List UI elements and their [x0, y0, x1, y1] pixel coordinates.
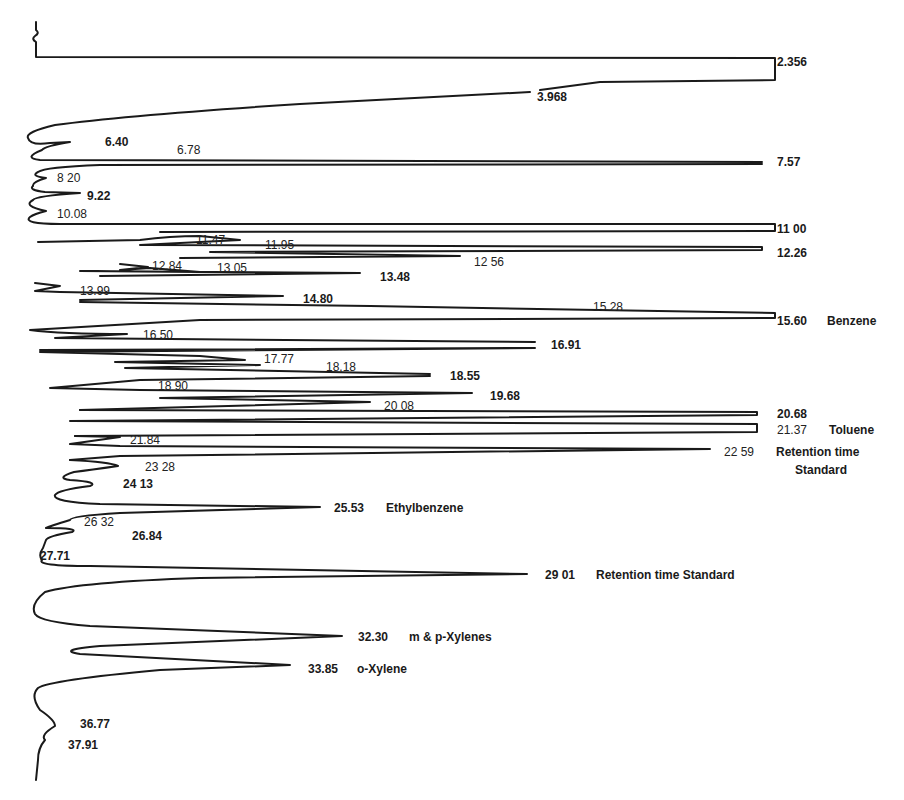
peak-label: 6.40	[105, 135, 129, 149]
peak-label: 8 20	[57, 171, 81, 185]
peak-label: 20.68	[777, 407, 807, 421]
peak-label: 17.77	[264, 352, 294, 366]
peak-label: 18,18	[326, 360, 356, 374]
peak-label: 12.26	[777, 246, 807, 260]
peak-label: 29 01	[545, 568, 575, 582]
peak-label: 14.80	[303, 292, 333, 306]
peak-label: 25.53	[334, 501, 364, 515]
peak-label: 16.91	[551, 338, 581, 352]
peak-label: 21.84	[130, 433, 160, 447]
peak-label: 9.22	[87, 189, 111, 203]
peak-label: 36.77	[80, 717, 110, 731]
compound-name-benzene: Benzene	[827, 314, 877, 328]
peak-label: 13.48	[380, 270, 410, 284]
peak-label: 12.84	[152, 259, 182, 273]
peak-label: 13 05	[217, 261, 247, 275]
peak-label: 15 28	[593, 300, 623, 314]
compound-name-toluene: Toluene	[829, 423, 874, 437]
chromatogram: 2.356 3.968 6.40 6.78 7.57 8 20 9.22 10.…	[0, 0, 904, 800]
compound-name-ethylbenzene: Ethylbenzene	[386, 501, 464, 515]
peak-label: 37.91	[68, 738, 98, 752]
peak-label: 26 32	[84, 515, 114, 529]
peak-label: 11 00	[777, 222, 807, 236]
compound-name-rt-standard-1b: Standard	[795, 463, 847, 477]
peak-label: 18.55	[450, 369, 480, 383]
peak-label: 7.57	[777, 155, 801, 169]
peak-label: 12 56	[474, 255, 504, 269]
peak-label: 6.78	[177, 143, 201, 157]
peak-label: 32.30	[358, 630, 388, 644]
peak-label: 18 90	[158, 379, 188, 393]
peak-label: 20 08	[384, 399, 414, 413]
peak-label: 2.356	[777, 55, 807, 69]
peak-label: 11.95	[265, 238, 294, 252]
compound-name-rt-standard-1: Retention time	[776, 445, 860, 459]
peak-label: 33.85	[308, 662, 338, 676]
peak-label: 15.60	[777, 314, 807, 328]
peak-label: 22 59	[724, 445, 754, 459]
peak-label: 26.84	[132, 529, 162, 543]
peak-label: 19.68	[490, 389, 520, 403]
peak-label: 24 13	[123, 477, 153, 491]
peak-label: 3.968	[537, 90, 567, 104]
peak-label: 21.37	[777, 423, 807, 437]
peak-label: 27.71	[40, 549, 70, 563]
peak-label: 16 50	[143, 328, 173, 342]
peak-label: 10.08	[57, 207, 87, 221]
compound-name-rt-standard-2: Retention time Standard	[596, 568, 735, 582]
peak-label: 13.99	[80, 284, 110, 298]
compound-name-o-xylene: o-Xylene	[357, 662, 407, 676]
peak-label: 11.47	[196, 233, 225, 247]
peak-label: 23 28	[145, 460, 175, 474]
compound-name-mp-xylenes: m & p-Xylenes	[409, 630, 492, 644]
